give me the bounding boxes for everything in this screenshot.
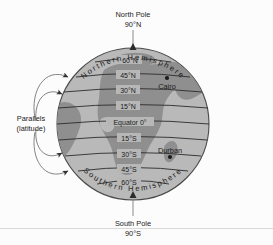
globe-latitude-diagram: 60°N 45°N 30°N 15°N Equator 0° 15°S 30°S…	[0, 0, 273, 245]
north-pole-value: 90°N	[125, 20, 142, 29]
parallel-label-30s: 30°S	[121, 151, 137, 158]
north-pole-title: North Pole	[116, 10, 151, 19]
parallel-label-15s: 15°S	[121, 135, 137, 142]
south-pole-value: 90°S	[125, 229, 141, 238]
callout-label-line2: (latitude)	[17, 124, 46, 133]
figure-panel: 60°N 45°N 30°N 15°N Equator 0° 15°S 30°S…	[0, 0, 273, 245]
south-pole-title: South Pole	[115, 219, 151, 228]
parallel-label-45n: 45°N	[120, 72, 136, 79]
city-dot-durban	[168, 155, 172, 159]
city-label-cairo: Cairo	[158, 82, 176, 91]
parallel-label-45s: 45°S	[121, 166, 137, 173]
city-dot-cairo	[165, 76, 169, 80]
parallel-label-15n: 15°N	[120, 103, 136, 110]
callout-label-line1: Parallels	[17, 114, 46, 123]
bottom-divider	[0, 228, 273, 229]
parallel-label-30n: 30°N	[120, 87, 136, 94]
city-label-durban: Durban	[158, 146, 182, 155]
parallel-label-equator: Equator 0°	[113, 119, 146, 127]
